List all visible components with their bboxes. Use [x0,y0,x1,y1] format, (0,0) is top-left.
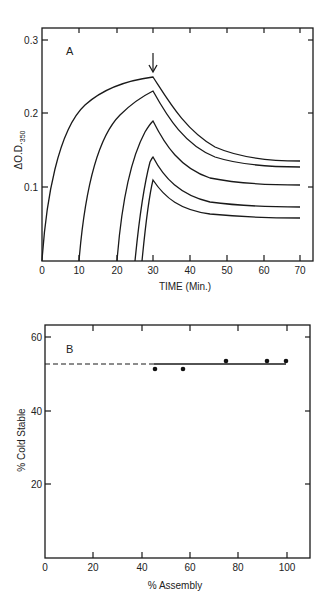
panel-a-xtick-label: 60 [258,265,270,276]
panel-b-xtick-label: 60 [184,562,196,573]
svg-text:ΔO.D.350: ΔO.D.350 [13,130,26,169]
down-arrow-icon [149,53,157,72]
panel-b-y-ticks [45,337,310,484]
curve-start-0 [42,77,300,261]
panel-b-points [153,359,289,372]
panel-a-ytick-label: 0.2 [24,108,38,119]
panel-a-xtick-label: 30 [147,265,159,276]
panel-a-curves [42,77,300,261]
panel-b: 60 40 20 0 20 40 60 80 100 % Assembly % … [16,325,310,591]
panel-b-xtick-label: 40 [136,562,148,573]
data-point [265,359,270,364]
panel-a-y-axis-label: ΔO.D.350 [13,130,26,169]
curve-start-10 [79,91,300,261]
panel-b-frame [45,325,310,558]
data-point [153,367,158,372]
panel-a-label: A [66,45,74,57]
panel-a-xtick-label: 50 [221,265,233,276]
panel-b-ytick-label: 20 [31,479,43,490]
panel-b-xtick-label: 0 [42,562,48,573]
panel-a-ytick-label: 0.1 [24,182,38,193]
panel-b-ytick-label: 40 [31,406,43,417]
panel-a-ytick-label: 0.3 [24,35,38,46]
panel-b-xtick-label: 80 [232,562,244,573]
figure: 0.3 0.2 0.1 0 10 20 30 40 50 60 70 TIME … [0,0,330,609]
panel-b-x-axis-label: % Assembly [148,580,202,591]
curve-start-27 [142,180,300,261]
panel-b-xtick-label: 100 [279,562,296,573]
panel-a-xtick-label: 0 [39,265,45,276]
panel-a-x-axis-label: TIME (Min.) [159,281,211,292]
panel-a-xtick-label: 40 [184,265,196,276]
panel-b-xtick-label: 20 [87,562,99,573]
data-point [224,359,229,364]
panel-a: 0.3 0.2 0.1 0 10 20 30 40 50 60 70 TIME … [13,28,313,292]
panel-b-y-axis-label: % Cold Stable [16,408,27,472]
data-point [181,367,186,372]
data-point [284,359,289,364]
panel-a-xtick-label: 70 [294,265,306,276]
curve-start-25 [135,157,300,261]
panel-a-xtick-label: 10 [73,265,85,276]
panel-a-x-ticks [79,28,300,261]
panel-a-xtick-label: 20 [111,265,123,276]
panel-b-ytick-label: 60 [31,332,43,343]
panel-b-label: B [66,343,73,355]
panel-b-x-ticks [93,325,287,558]
